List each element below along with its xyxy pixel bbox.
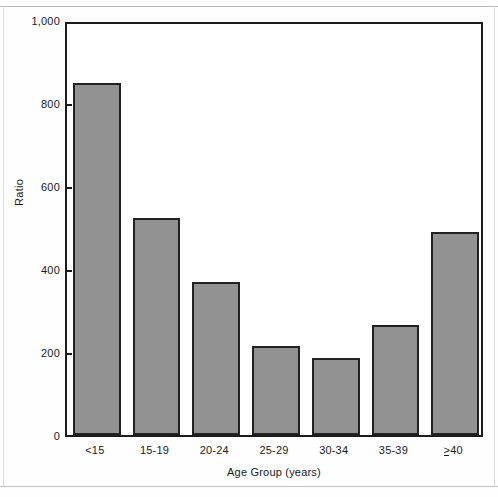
scan-border-right — [494, 6, 495, 487]
y-axis-tick-label: 400 — [14, 265, 60, 276]
bar — [73, 83, 121, 435]
y-axis-tick-label: 800 — [14, 99, 60, 110]
y-axis-tick-label: 200 — [14, 348, 60, 359]
y-axis-tick-mark — [65, 353, 72, 355]
scan-border-top — [0, 6, 498, 7]
y-axis-tick-label: 1,000 — [14, 16, 60, 27]
y-axis-tick-mark — [65, 270, 72, 272]
x-axis-tick-label: 30-34 — [304, 444, 364, 456]
bar — [252, 346, 300, 435]
y-axis-tick-mark — [65, 187, 72, 189]
bar — [372, 325, 420, 435]
y-axis-tick-mark — [65, 104, 72, 106]
y-axis-tick-labels: 02004006008001,000 — [8, 0, 60, 497]
bar — [312, 358, 360, 435]
x-axis-tick-label: <15 — [65, 444, 125, 456]
y-axis-tick-label: 0 — [14, 431, 60, 442]
x-axis-tick-label: 20-24 — [184, 444, 244, 456]
bar — [192, 282, 240, 435]
scan-border-bottom — [0, 486, 498, 487]
x-axis-tick-label: >40 — [423, 444, 483, 456]
y-axis-tick-label: 600 — [14, 182, 60, 193]
x-axis-tick-label: 35-39 — [364, 444, 424, 456]
bar-chart-figure: Ratio 02004006008001,000 <1515-1920-2425… — [0, 0, 498, 497]
bar — [431, 232, 479, 435]
x-axis-title: Age Group (years) — [65, 466, 483, 478]
plot-area — [65, 22, 483, 437]
x-axis-tick-label: 15-19 — [125, 444, 185, 456]
scan-border-left — [3, 6, 4, 487]
x-axis-tick-labels: <1515-1920-2425-2930-3435-39>40 — [65, 444, 483, 462]
bar — [133, 218, 181, 435]
x-axis-tick-label: 25-29 — [244, 444, 304, 456]
bars-layer — [67, 24, 481, 435]
